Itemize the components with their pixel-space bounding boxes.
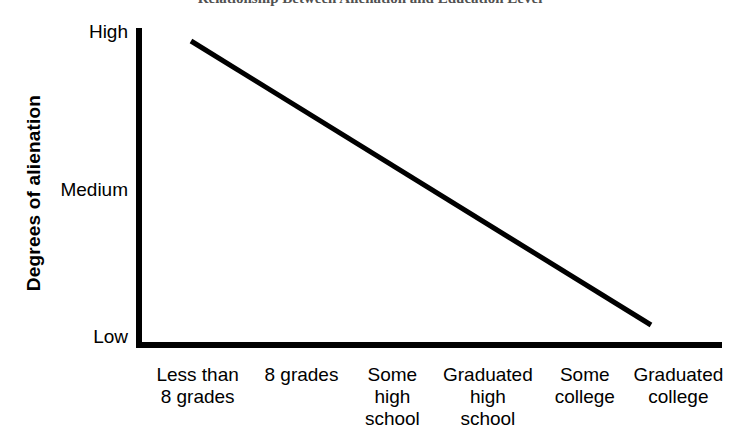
x-tick-label-8-grades: 8 grades (253, 364, 349, 386)
y-tick-label-high: High (8, 22, 128, 41)
x-axis-category-labels: Less than 8 grades 8 grades Some high sc… (142, 364, 728, 445)
x-tick-label-less-than-8-grades: Less than 8 grades (142, 364, 253, 408)
trend-line (191, 41, 651, 325)
y-tick-label-low: Low (8, 327, 128, 346)
x-tick-label-graduated-college: Graduated college (629, 364, 728, 408)
plot-area (136, 24, 726, 346)
y-axis-tick-labels: High Medium Low (0, 0, 128, 445)
y-tick-label-medium: Medium (8, 180, 128, 199)
x-tick-label-some-college: Some college (541, 364, 629, 408)
x-tick-label-graduated-high-school: Graduated high school (435, 364, 541, 430)
x-tick-label-some-high-school: Some high school (350, 364, 435, 430)
trend-line-svg (136, 24, 726, 346)
